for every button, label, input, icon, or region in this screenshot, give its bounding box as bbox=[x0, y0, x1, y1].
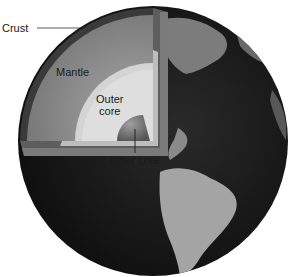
outer-core-label-line1: Outer bbox=[96, 93, 124, 105]
earth-diagram bbox=[0, 0, 296, 277]
outer-core-label: Outer core bbox=[96, 93, 124, 117]
inner-core-label: Inner core bbox=[110, 154, 160, 166]
crust-label: Crust bbox=[2, 22, 28, 34]
mantle-label: Mantle bbox=[56, 66, 89, 78]
outer-core-label-line2: core bbox=[96, 105, 124, 117]
